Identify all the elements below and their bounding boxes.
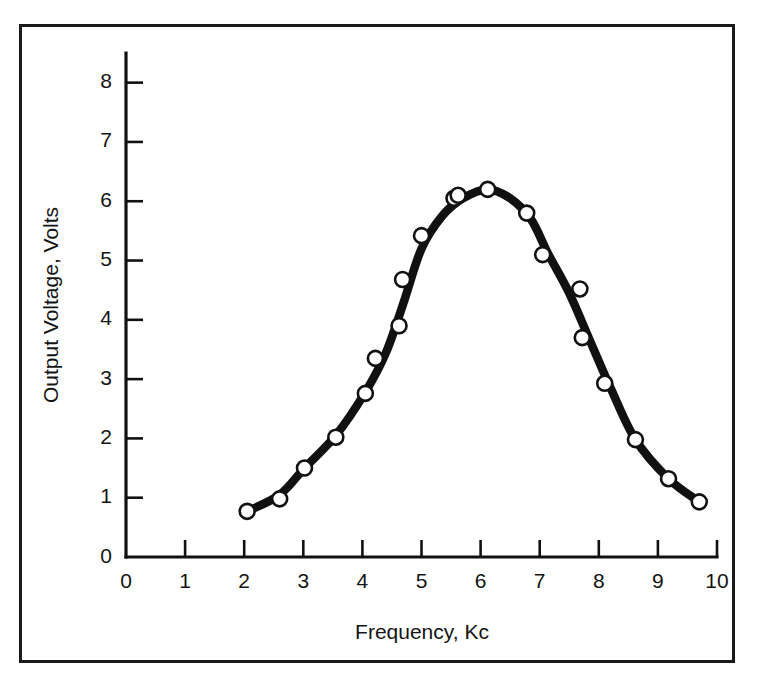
x-tick-label: 9 (652, 569, 664, 592)
y-tick-label: 5 (100, 247, 112, 270)
data-point (575, 330, 590, 345)
x-tick-label: 5 (416, 569, 428, 592)
x-tick-label: 0 (120, 569, 132, 592)
y-tick-label: 1 (100, 484, 112, 507)
data-point (414, 228, 429, 243)
data-point (692, 494, 707, 509)
x-tick-label: 6 (475, 569, 487, 592)
data-point (368, 351, 383, 366)
data-point (328, 430, 343, 445)
x-axis-title: Frequency, Kc (355, 620, 489, 643)
data-point (535, 247, 550, 262)
x-tick-labels: 012345678910 (120, 569, 729, 592)
x-tick-label: 1 (179, 569, 191, 592)
y-tick-label: 4 (100, 306, 112, 329)
data-point (358, 386, 373, 401)
y-tick-labels: 012345678 (100, 69, 112, 566)
data-point (451, 188, 466, 203)
data-point (597, 376, 612, 391)
response-curve (247, 189, 699, 511)
y-tick-label: 0 (100, 544, 112, 567)
y-axis-title: Output Voltage, Volts (39, 207, 62, 403)
y-tick-label: 8 (100, 69, 112, 92)
x-tick-label: 4 (357, 569, 369, 592)
figure-frame: 012345678 012345678910 Frequency, Kc Out… (19, 24, 735, 663)
data-point-markers (240, 182, 707, 519)
figure-page: 012345678 012345678910 Frequency, Kc Out… (0, 0, 778, 691)
x-tick-label: 2 (238, 569, 250, 592)
data-point (519, 206, 534, 221)
data-point (240, 504, 255, 519)
data-point (297, 461, 312, 476)
data-point (392, 318, 407, 333)
data-point (628, 432, 643, 447)
data-point (272, 491, 287, 506)
x-tick-marks (185, 540, 717, 557)
x-tick-label: 8 (593, 569, 605, 592)
x-tick-label: 7 (534, 569, 546, 592)
data-point (572, 281, 587, 296)
y-tick-label: 2 (100, 425, 112, 448)
y-tick-label: 7 (100, 128, 112, 151)
y-tick-label: 6 (100, 188, 112, 211)
data-point (661, 471, 676, 486)
y-tick-label: 3 (100, 366, 112, 389)
data-point (395, 272, 410, 287)
y-tick-marks (126, 83, 143, 498)
data-point (480, 182, 495, 197)
chart-canvas: 012345678 012345678910 Frequency, Kc Out… (22, 27, 732, 660)
x-tick-label: 10 (705, 569, 728, 592)
x-tick-label: 3 (297, 569, 309, 592)
